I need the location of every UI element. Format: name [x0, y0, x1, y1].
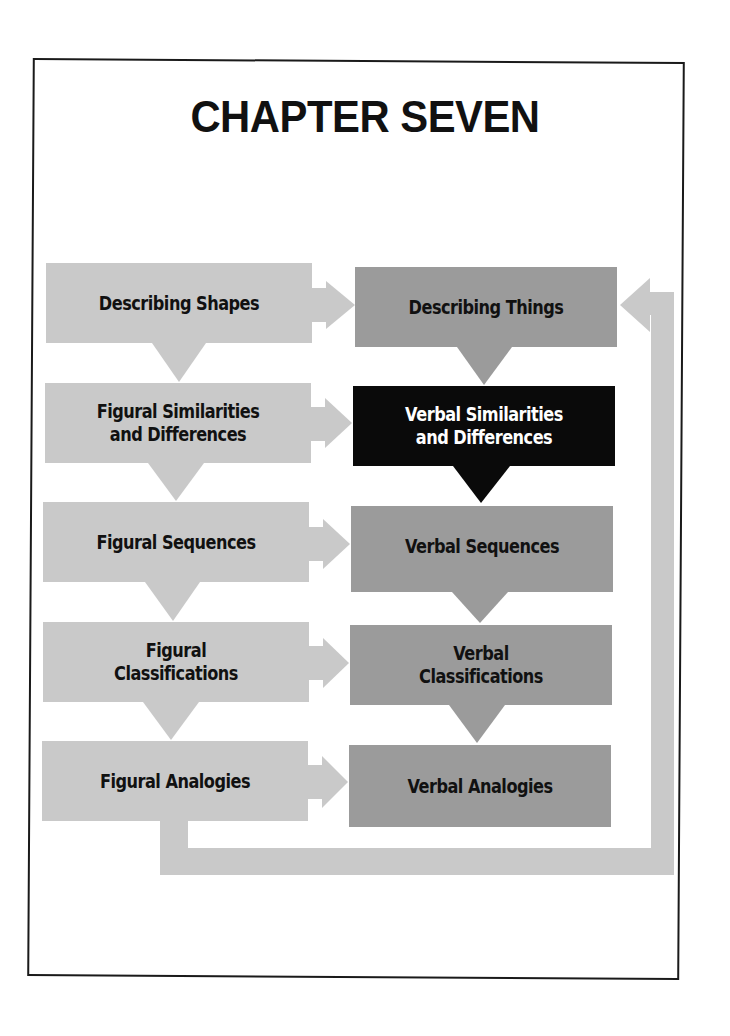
label-verbal-analogies: Verbal Analogies	[369, 745, 592, 827]
label-describing-shapes: Describing Shapes	[66, 263, 292, 343]
down-arrow-icon	[452, 592, 508, 623]
label-describing-things: Describing Things	[375, 267, 598, 347]
down-arrow-icon	[143, 702, 199, 740]
label-figural-classifications: Figural Classifications	[63, 622, 289, 702]
right-arrow-icon	[307, 638, 349, 688]
right-arrow-icon	[309, 398, 352, 448]
down-arrow-icon	[148, 463, 204, 501]
right-arrow-icon	[307, 519, 350, 569]
down-arrow-icon	[449, 705, 505, 743]
label-figural-similarities: Figural Similarities and Differences	[65, 383, 291, 463]
down-arrow-icon	[453, 466, 510, 503]
down-arrow-icon	[152, 343, 206, 382]
label-figural-analogies: Figural Analogies	[62, 741, 288, 821]
label-verbal-classifications: Verbal Classifications	[370, 625, 593, 705]
label-verbal-sequences: Verbal Sequences	[371, 506, 594, 586]
right-arrow-icon	[310, 281, 355, 329]
right-arrow-icon	[306, 756, 348, 808]
label-figural-sequences: Figural Sequences	[63, 502, 289, 582]
down-arrow-icon	[145, 582, 200, 621]
down-arrow-icon	[457, 347, 512, 385]
right-arrows	[306, 281, 355, 808]
label-verbal-similarities: Verbal Similarities and Differences	[373, 386, 596, 466]
